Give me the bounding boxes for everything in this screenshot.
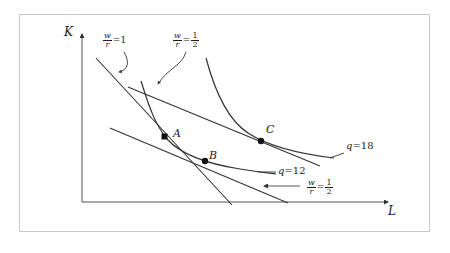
axis-label-k: K [64,26,73,38]
q-value-18: 18 [361,140,374,151]
leader-arrow-wr-1 [119,52,127,72]
relation-wr-half-bottom: = [317,182,325,192]
q-value-12: 12 [293,165,306,176]
point-marker-b [202,158,208,164]
point-marker-c [258,138,264,144]
isocost-line-wr-1 [96,58,232,205]
fraction-one-half-top: 1 2 [191,32,198,50]
isocost-label-wr-half-bottom: w r = 1 2 [306,179,334,197]
isocost-line-wr-half-c [128,87,320,166]
axis-label-l: L [388,205,396,217]
q-equals-18: = [352,140,360,151]
isoquant-label-q18: q=18 [346,141,374,151]
isoquant-label-q12: q=12 [278,166,306,176]
point-label-b: B [209,150,217,161]
point-label-c: C [266,124,274,135]
leader-arrow-wr-half [158,52,186,84]
isocost-label-wr-half-top: w r = 1 2 [172,32,200,50]
figure-container: K L A B C q=12 q=18 w r =1 w r = 1 2 w r… [0,0,450,253]
fraction-w-over-r-half-bottom: w r [307,179,316,197]
leader-line-q18 [330,153,344,158]
value-wr-1: 1 [120,35,126,45]
isocost-label-wr-1: w r =1 [102,32,126,50]
relation-wr-half-top: = [183,35,191,45]
q-equals-12: = [284,165,292,176]
fraction-w-over-r-1: w r [103,32,112,50]
point-label-a: A [173,128,181,139]
isoquant-curve-q18 [206,58,334,158]
fraction-one-half-bottom: 1 2 [325,179,332,197]
point-marker-a [162,134,168,140]
fraction-w-over-r-half-top: w r [173,32,182,50]
